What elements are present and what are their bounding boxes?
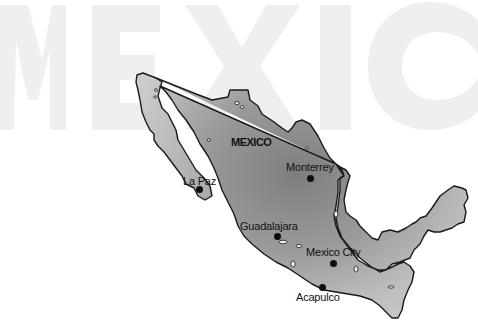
city-dot-acapulco[interactable] [319, 284, 326, 291]
city-label-monterrey: Monterrey [286, 161, 334, 173]
city-label-mexico-city: Mexico City [306, 246, 361, 258]
city-dot-guadalajara[interactable] [274, 233, 281, 240]
city-dot-monterrey[interactable] [307, 175, 314, 182]
country-map [0, 0, 478, 332]
city-label-acapulco: Acapulco [296, 291, 340, 303]
city-label-guadalajara: Guadalajara [240, 220, 298, 232]
city-dot-mexico-city[interactable] [330, 260, 337, 267]
map-stage: MEXICO Monterrey La Paz Guadalajara Mexi… [0, 0, 478, 332]
country-label: MEXICO [231, 136, 271, 148]
city-dot-la-paz[interactable] [196, 186, 203, 193]
